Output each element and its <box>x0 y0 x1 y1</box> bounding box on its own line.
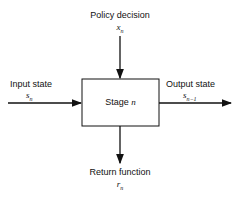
policy-decision-label: Policy decision <box>80 10 160 20</box>
sub-n: n <box>120 185 123 191</box>
stage-label: Stage n <box>82 97 159 107</box>
input-state-var: sn <box>26 90 46 102</box>
input-state-label: Input state <box>10 79 70 89</box>
stage-var: n <box>131 97 136 107</box>
return-function-var: rn <box>110 179 130 191</box>
output-state-var: sn−1 <box>183 90 223 102</box>
sub-n-minus-1: n−1 <box>187 96 197 102</box>
stage-text: Stage <box>105 97 129 107</box>
sub-n: n <box>30 96 33 102</box>
policy-decision-var: xn <box>110 22 130 34</box>
output-state-label: Output state <box>166 79 236 89</box>
sub-n: n <box>121 28 124 34</box>
return-function-label: Return function <box>75 167 165 177</box>
